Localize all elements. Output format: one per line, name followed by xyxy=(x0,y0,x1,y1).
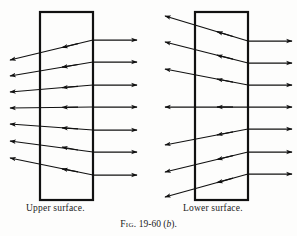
slab-lower-surface xyxy=(195,12,248,200)
mid-arrow-7 xyxy=(217,178,233,182)
mid-arrow-5 xyxy=(62,128,78,129)
mid-arrow-3 xyxy=(217,79,233,82)
mid-arrow-6 xyxy=(217,156,233,160)
refracted-ray-2 xyxy=(165,42,248,63)
panel-label-upper-surface: Upper surface. xyxy=(26,203,85,213)
figure-container: Upper surface. Lower surface. Fig. 19-60… xyxy=(0,0,297,236)
panel-label-lower-surface: Lower surface. xyxy=(183,203,243,213)
mid-arrow-2 xyxy=(217,55,233,59)
panel-upper-surface xyxy=(10,12,137,200)
mid-arrow-2 xyxy=(62,65,78,68)
mid-slab-arrowheads-upper xyxy=(62,44,78,172)
mid-arrow-5 xyxy=(217,132,233,135)
refracted-ray-4 xyxy=(10,107,93,108)
mid-arrow-3 xyxy=(62,86,78,87)
incoming-rays-lower xyxy=(248,41,292,174)
incoming-rays-upper xyxy=(93,40,137,175)
refracted-ray-3 xyxy=(165,69,248,85)
optics-ray-diagram xyxy=(0,0,297,236)
refracted-rays-upper xyxy=(10,40,93,175)
refracted-rays-lower xyxy=(165,16,248,197)
mid-arrow-1 xyxy=(62,44,78,48)
refracted-ray-3 xyxy=(10,85,93,92)
refracted-ray-6 xyxy=(10,141,93,152)
refracted-ray-5 xyxy=(10,124,93,130)
refracted-ray-7 xyxy=(10,158,93,175)
mid-arrow-7 xyxy=(62,169,78,172)
refracted-ray-1 xyxy=(10,40,93,60)
figure-caption: Fig. 19-60 (b). xyxy=(0,219,297,229)
caption-paren-close: ). xyxy=(171,219,177,229)
mid-arrow-1 xyxy=(217,32,233,37)
refracted-ray-6 xyxy=(165,152,248,172)
refracted-ray-2 xyxy=(10,62,93,76)
mid-slab-arrowheads-lower xyxy=(217,32,233,183)
refracted-ray-1 xyxy=(165,16,248,41)
caption-number: 19-60 xyxy=(139,219,161,229)
refracted-ray-5 xyxy=(165,129,248,145)
slab-upper-surface xyxy=(40,12,93,200)
refracted-ray-7 xyxy=(165,174,248,197)
panel-lower-surface xyxy=(165,12,292,200)
caption-fig-word: Fig. xyxy=(120,219,136,229)
